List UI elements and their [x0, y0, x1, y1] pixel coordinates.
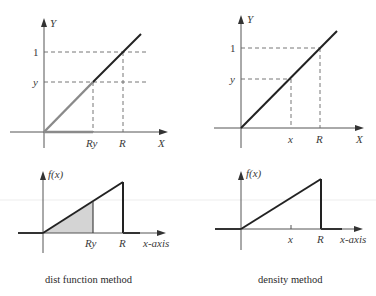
x-tick-r: R	[315, 133, 323, 145]
y-tick-1: 1	[230, 42, 236, 54]
y-tick-1: 1	[33, 46, 39, 58]
pdf-line	[241, 179, 321, 229]
caption-dist-function: dist function method	[45, 274, 133, 285]
x-tick-r: R	[316, 233, 324, 245]
x-axis-arrow-icon	[355, 125, 364, 131]
x-tick-x: x	[287, 233, 293, 245]
diagram-canvas: Y 1 y Ry R X Y 1 y x R X f(x) Ry	[0, 0, 376, 296]
highlight-cdf-segment	[44, 82, 93, 132]
caption-density: density method	[258, 274, 323, 285]
y-axis-label: f(x)	[246, 167, 262, 180]
x-axis-arrow-icon	[159, 129, 168, 135]
x-tick-ry: Ry	[85, 137, 98, 149]
x-tick-r: R	[118, 137, 126, 149]
y-axis-label: Y	[247, 13, 255, 25]
cdf-line	[93, 34, 141, 82]
x-axis-arrow-icon	[354, 226, 363, 232]
x-axis-label: x-axis	[142, 237, 169, 249]
y-axis-label: Y	[50, 17, 58, 29]
y-axis-arrow-icon	[41, 18, 47, 27]
x-axis-arrow-icon	[157, 230, 166, 236]
x-axis-label: x-axis	[339, 233, 366, 245]
y-tick-y: y	[229, 73, 235, 85]
x-tick-ry: Ry	[84, 237, 97, 249]
y-axis-arrow-icon	[40, 171, 46, 180]
panel-top-right-cdf: Y 1 y x R X	[214, 13, 364, 148]
y-axis-arrow-icon	[238, 171, 244, 180]
panel-bottom-left-pdf: f(x) Ry R x-axis	[18, 168, 169, 253]
cdf-line	[241, 31, 337, 128]
y-axis-arrow-icon	[238, 15, 244, 24]
x-axis-label: X	[157, 137, 166, 149]
panel-top-left-cdf: Y 1 y Ry R X	[10, 17, 168, 149]
panel-bottom-right-pdf: f(x) x R x-axis	[215, 167, 366, 250]
x-tick-x: x	[287, 133, 293, 145]
x-tick-r: R	[118, 237, 126, 249]
y-axis-label: f(x)	[48, 168, 64, 181]
x-axis-label: X	[355, 133, 364, 145]
y-tick-y: y	[32, 76, 38, 88]
